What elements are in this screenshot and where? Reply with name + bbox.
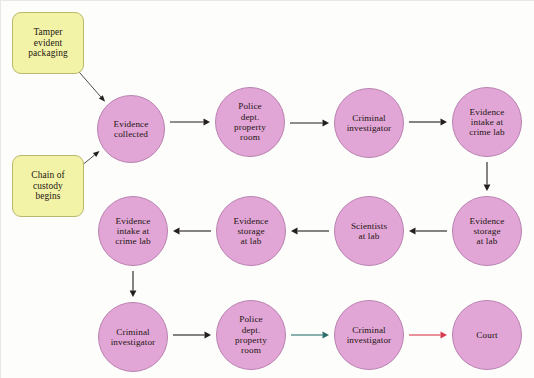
node-label: Evidence storage at lab xyxy=(467,216,508,247)
node-label: Criminal investigator xyxy=(344,113,395,134)
node-scientists-at-lab[interactable]: Scientists at lab xyxy=(334,196,404,266)
node-label: Evidence intake at crime lab xyxy=(112,216,153,247)
node-evidence-storage-at-lab-right[interactable]: Evidence storage at lab xyxy=(452,196,522,266)
node-label: Criminal investigator xyxy=(108,327,159,348)
arrow-evidence-collected-to-property-room xyxy=(158,110,222,134)
arrow-storage-right-to-scientists xyxy=(397,219,459,243)
page-edge-left xyxy=(0,0,1,378)
node-court[interactable]: Court xyxy=(452,300,522,370)
node-criminal-investigator-3[interactable]: Criminal investigator xyxy=(334,300,404,370)
node-label: Evidence collected xyxy=(111,119,152,140)
page-edge-top xyxy=(0,0,534,1)
node-chain-of-custody-begins[interactable]: Chain of custody begins xyxy=(12,155,84,217)
node-label: Police dept. property room xyxy=(232,314,270,355)
node-label: Tamper evident packaging xyxy=(25,27,70,59)
node-evidence-collected[interactable]: Evidence collected xyxy=(97,95,165,163)
arrow-property-room-2-to-investigator-3 xyxy=(279,323,341,347)
arrow-property-room-to-investigator xyxy=(278,111,341,135)
node-criminal-investigator-2[interactable]: Criminal investigator xyxy=(98,302,168,372)
node-tamper-evident-packaging[interactable]: Tamper evident packaging xyxy=(12,12,84,74)
node-criminal-investigator-1[interactable]: Criminal investigator xyxy=(334,88,404,158)
node-police-dept-property-room-1[interactable]: Police dept. property room xyxy=(215,87,285,157)
arrow-investigator-to-intake xyxy=(397,110,459,134)
node-label: Court xyxy=(473,330,500,340)
arrow-scientists-to-storage-middle xyxy=(279,219,341,243)
node-evidence-storage-at-lab-middle[interactable]: Evidence storage at lab xyxy=(216,196,286,266)
arrow-storage-middle-to-intake-2 xyxy=(161,219,223,243)
node-label: Evidence storage at lab xyxy=(231,216,272,247)
node-label: Police dept. property room xyxy=(231,101,269,142)
node-label: Chain of custody begins xyxy=(28,170,67,202)
node-label: Criminal investigator xyxy=(344,325,395,346)
node-label: Evidence intake at crime lab xyxy=(466,107,507,138)
node-evidence-intake-at-crime-lab-1[interactable]: Evidence intake at crime lab xyxy=(452,87,522,157)
arrow-investigator-3-to-court xyxy=(397,323,459,347)
flowchart-canvas: Tamper evident packagingChain of custody… xyxy=(0,0,534,378)
node-police-dept-property-room-2[interactable]: Police dept. property room xyxy=(216,300,286,370)
node-evidence-intake-at-crime-lab-2[interactable]: Evidence intake at crime lab xyxy=(98,196,168,266)
node-label: Scientists at lab xyxy=(348,221,390,242)
arrow-investigator-2-to-property-room-2 xyxy=(161,323,223,347)
